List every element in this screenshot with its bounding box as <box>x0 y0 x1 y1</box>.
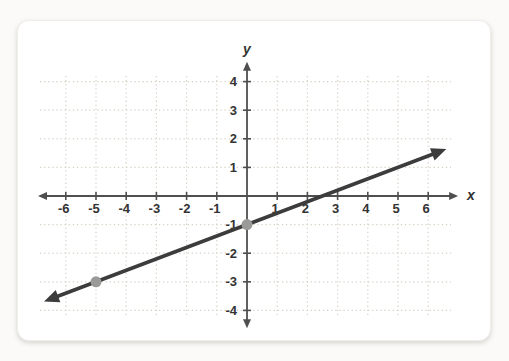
plotted-point <box>91 276 102 287</box>
plotted-point <box>242 219 253 230</box>
x-tick-label: -3 <box>149 201 161 216</box>
y-tick-label: 4 <box>230 74 238 89</box>
plotted-line-arrow-start <box>44 290 60 302</box>
y-tick-label: -2 <box>225 246 237 261</box>
x-axis-arrow-end <box>449 192 458 200</box>
y-tick-label: 3 <box>230 103 237 118</box>
coordinate-plane-chart: -6-5-4-3-2-1123456-4-3-2-11234xy <box>0 0 509 361</box>
x-tick-label: 4 <box>362 201 370 216</box>
plotted-line-arrow-end <box>430 148 446 160</box>
y-axis-arrow-end <box>243 62 251 71</box>
x-tick-label: -2 <box>179 201 191 216</box>
x-axis-label: x <box>466 187 476 203</box>
y-tick-label: 1 <box>230 160 237 175</box>
x-tick-label: 6 <box>423 201 430 216</box>
y-tick-label: -4 <box>225 303 237 318</box>
x-tick-label: -6 <box>58 201 70 216</box>
y-tick-label: -3 <box>225 274 237 289</box>
y-tick-label: 2 <box>230 131 237 146</box>
x-axis-arrow-start <box>38 192 47 200</box>
x-tick-label: -5 <box>88 201 100 216</box>
x-tick-label: 3 <box>332 201 339 216</box>
x-tick-label: -1 <box>209 201 221 216</box>
x-tick-label: -4 <box>118 201 130 216</box>
y-axis-label: y <box>242 41 252 57</box>
x-tick-label: 5 <box>392 201 399 216</box>
y-axis-arrow-start <box>243 319 251 328</box>
